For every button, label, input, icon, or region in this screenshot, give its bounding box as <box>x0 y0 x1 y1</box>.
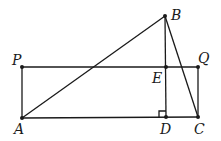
label-c: C <box>194 121 205 137</box>
point-d <box>164 115 168 119</box>
geometry-diagram: A B C D E P Q <box>0 0 221 141</box>
point-a <box>20 116 24 120</box>
segments <box>22 16 198 118</box>
point-b <box>163 14 167 18</box>
label-b: B <box>170 7 181 23</box>
point-e <box>164 65 168 69</box>
label-p: P <box>11 52 22 68</box>
label-e: E <box>151 70 162 86</box>
label-d: D <box>159 121 171 137</box>
label-a: A <box>12 121 24 137</box>
point-c <box>196 115 200 119</box>
segment-ac <box>22 117 198 118</box>
label-q: Q <box>198 50 210 66</box>
